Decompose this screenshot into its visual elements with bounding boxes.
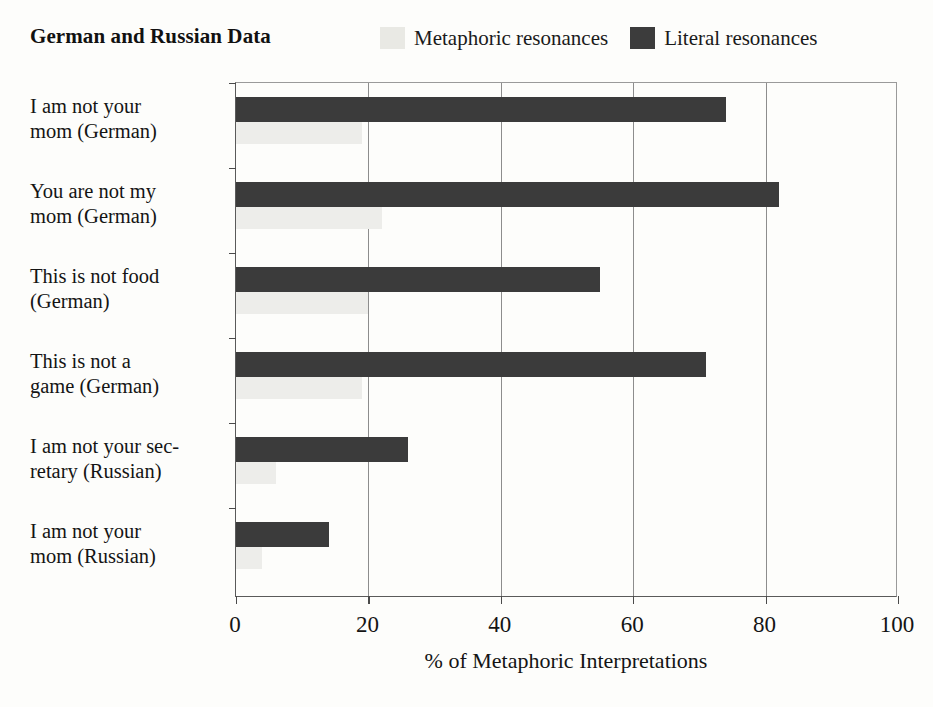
chart-header: German and Russian Data Metaphoric reson…	[0, 24, 933, 60]
x-axis-tick-label: 100	[880, 612, 915, 638]
y-axis-category-label-line: This is not food	[30, 264, 230, 289]
bar-metaphoric	[236, 377, 362, 399]
y-axis-category-label: This is not food(German)	[30, 264, 230, 314]
y-axis-category-label-line: (German)	[30, 289, 230, 314]
x-axis-tick-label: 0	[229, 612, 241, 638]
y-axis-category-label-line: I am not your	[30, 94, 230, 119]
legend-swatch-literal-icon	[630, 27, 655, 49]
y-axis-category-label: This is not agame (German)	[30, 349, 230, 399]
x-axis-tick	[368, 596, 369, 604]
y-axis-tick	[229, 508, 236, 509]
x-axis-title: % of Metaphoric Interpretations	[235, 648, 897, 674]
y-axis-category-label: I am not yourmom (Russian)	[30, 519, 230, 569]
bar-literal	[236, 182, 779, 207]
bar-group	[236, 267, 896, 314]
x-axis-tick	[236, 596, 237, 604]
y-axis-category-labels: I am not yourmom (German)You are not mym…	[0, 82, 232, 597]
x-axis-tick-label: 60	[621, 612, 644, 638]
x-axis-tick-label: 20	[356, 612, 379, 638]
bar-metaphoric	[236, 462, 276, 484]
bar-literal	[236, 267, 600, 292]
y-axis-category-label: I am not your sec-retary (Russian)	[30, 434, 230, 484]
bar-group	[236, 437, 896, 484]
y-axis-category-label-line: I am not your sec-	[30, 434, 230, 459]
x-axis-tick	[501, 596, 502, 604]
bar-metaphoric	[236, 207, 382, 229]
bar-literal	[236, 437, 408, 462]
bar-metaphoric	[236, 292, 368, 314]
legend-item-metaphoric: Metaphoric resonances	[380, 26, 630, 51]
x-axis-tick	[633, 596, 634, 604]
y-axis-category-label-line: mom (Russian)	[30, 544, 230, 569]
y-axis-tick	[229, 83, 236, 84]
y-axis-category-label-line: retary (Russian)	[30, 459, 230, 484]
bar-metaphoric	[236, 547, 262, 569]
x-axis-tick	[898, 596, 899, 604]
y-axis-category-label: I am not yourmom (German)	[30, 94, 230, 144]
x-axis-tick-label: 40	[488, 612, 511, 638]
y-axis-category-label-line: mom (German)	[30, 204, 230, 229]
y-axis-tick	[229, 253, 236, 254]
y-axis-category-label-line: mom (German)	[30, 119, 230, 144]
y-axis-tick	[229, 338, 236, 339]
bars-layer	[236, 83, 896, 596]
y-axis-category-label: You are not mymom (German)	[30, 179, 230, 229]
x-axis-tick-label: 80	[753, 612, 776, 638]
plot-area	[235, 82, 897, 597]
bar-metaphoric	[236, 122, 362, 144]
y-axis-category-label-line: game (German)	[30, 374, 230, 399]
bar-group	[236, 182, 896, 229]
y-axis-category-label-line: This is not a	[30, 349, 230, 374]
y-axis-tick	[229, 168, 236, 169]
chart-title: German and Russian Data	[30, 24, 271, 49]
y-axis-category-label-line: You are not my	[30, 179, 230, 204]
legend-label-literal: Literal resonances	[664, 26, 817, 51]
bar-group	[236, 352, 896, 399]
legend-item-literal: Literal resonances	[630, 26, 817, 51]
bar-group	[236, 522, 896, 569]
bar-literal	[236, 352, 706, 377]
x-axis-tick-labels: 020406080100	[235, 612, 897, 644]
chart-legend: Metaphoric resonances Literal resonances	[380, 24, 818, 52]
y-axis-category-label-line: I am not your	[30, 519, 230, 544]
y-axis-tick	[229, 423, 236, 424]
legend-swatch-metaphoric-icon	[380, 27, 405, 49]
x-axis-tick	[766, 596, 767, 604]
bar-literal	[236, 97, 726, 122]
bar-group	[236, 97, 896, 144]
chart-page: German and Russian Data Metaphoric reson…	[0, 0, 933, 707]
legend-label-metaphoric: Metaphoric resonances	[414, 26, 608, 51]
bar-literal	[236, 522, 329, 547]
